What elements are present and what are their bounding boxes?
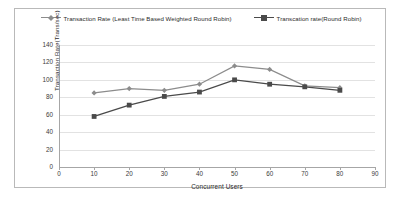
data-point [127, 103, 132, 108]
data-point [162, 94, 167, 99]
data-point [267, 82, 272, 87]
y-tick-label: 60 [13, 111, 53, 118]
legend-label-0: Transaction Rate (Least Time Based Weigh… [64, 15, 232, 22]
chart-legend: Transaction Rate (Least Time Based Weigh… [15, 14, 387, 22]
x-tick-mark [59, 167, 60, 170]
x-tick-mark [305, 167, 306, 170]
y-tick-label: 20 [13, 146, 53, 153]
legend-marker-square-icon [254, 14, 274, 22]
data-point [232, 63, 237, 68]
x-tick-mark [129, 167, 130, 170]
legend-label-1: Transcation rate(Round Robin) [277, 15, 362, 22]
y-tick-label: 0 [13, 163, 53, 170]
x-tick-label: 40 [187, 170, 211, 177]
legend-item-1: Transcation rate(Round Robin) [254, 14, 362, 22]
chart-frame: Transaction Rate (Least Time Based Weigh… [14, 8, 386, 188]
y-axis-title: Transaction Rate(Trans/sec) [53, 10, 60, 91]
plot-area: 020406080100120140 0102030405060708090 T… [59, 45, 375, 167]
x-tick-label: 0 [47, 170, 71, 177]
x-tick-mark [340, 167, 341, 170]
gridline [59, 167, 375, 168]
x-tick-mark [375, 167, 376, 170]
x-tick-label: 60 [258, 170, 282, 177]
y-tick-label: 100 [13, 76, 53, 83]
y-tick-label: 140 [13, 41, 53, 48]
data-point [92, 90, 97, 95]
x-tick-label: 10 [82, 170, 106, 177]
y-tick-label: 40 [13, 128, 53, 135]
x-tick-label: 80 [328, 170, 352, 177]
data-point [127, 86, 132, 91]
x-tick-mark [235, 167, 236, 170]
data-point [267, 67, 272, 72]
data-point [162, 88, 167, 93]
x-tick-label: 90 [363, 170, 387, 177]
data-point [92, 114, 97, 119]
data-point [197, 82, 202, 87]
x-tick-mark [199, 167, 200, 170]
x-tick-mark [270, 167, 271, 170]
x-tick-label: 30 [152, 170, 176, 177]
y-tick-label: 120 [13, 58, 53, 65]
data-point [197, 90, 202, 95]
chart-svg [59, 45, 375, 167]
data-point [337, 88, 342, 93]
data-point [232, 77, 237, 82]
x-tick-label: 20 [117, 170, 141, 177]
x-tick-mark [94, 167, 95, 170]
x-tick-label: 70 [293, 170, 317, 177]
x-tick-label: 50 [223, 170, 247, 177]
data-point [302, 84, 307, 89]
x-axis-title: Concurrent Users [59, 183, 375, 190]
x-tick-mark [164, 167, 165, 170]
series-plot [59, 45, 375, 167]
legend-item-0: Transaction Rate (Least Time Based Weigh… [41, 14, 232, 22]
y-tick-label: 80 [13, 93, 53, 100]
